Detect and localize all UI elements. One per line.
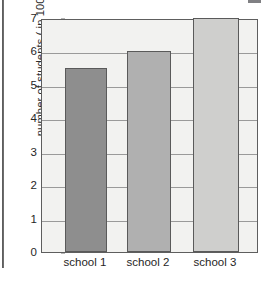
y-axis-tick-label: 2	[24, 180, 37, 192]
y-axis-tick-label: 7	[24, 13, 37, 25]
x-axis-tick-label: school 1	[64, 256, 107, 268]
x-axis-tick-labels: school 1school 2school 3	[41, 256, 258, 274]
y-axis-tick-labels: 76543210	[24, 19, 37, 253]
y-axis-tick-label: 6	[24, 47, 37, 59]
y-axis-tick-label: 4	[24, 114, 37, 126]
x-axis-tick-label: school 2	[127, 256, 170, 268]
bar-1	[65, 68, 107, 252]
x-axis-tick-label: school 3	[194, 256, 237, 268]
bar-3	[193, 18, 239, 252]
y-axis-tick-label: 5	[24, 80, 37, 92]
bar-chart: number of students ( in 100s) 76543210 s…	[0, 0, 267, 290]
plot-area	[41, 19, 258, 253]
bar-2	[127, 51, 171, 252]
y-axis-tick-label: 0	[24, 247, 37, 259]
y-axis-tick-label: 1	[24, 214, 37, 226]
y-axis-tick-label: 3	[24, 147, 37, 159]
